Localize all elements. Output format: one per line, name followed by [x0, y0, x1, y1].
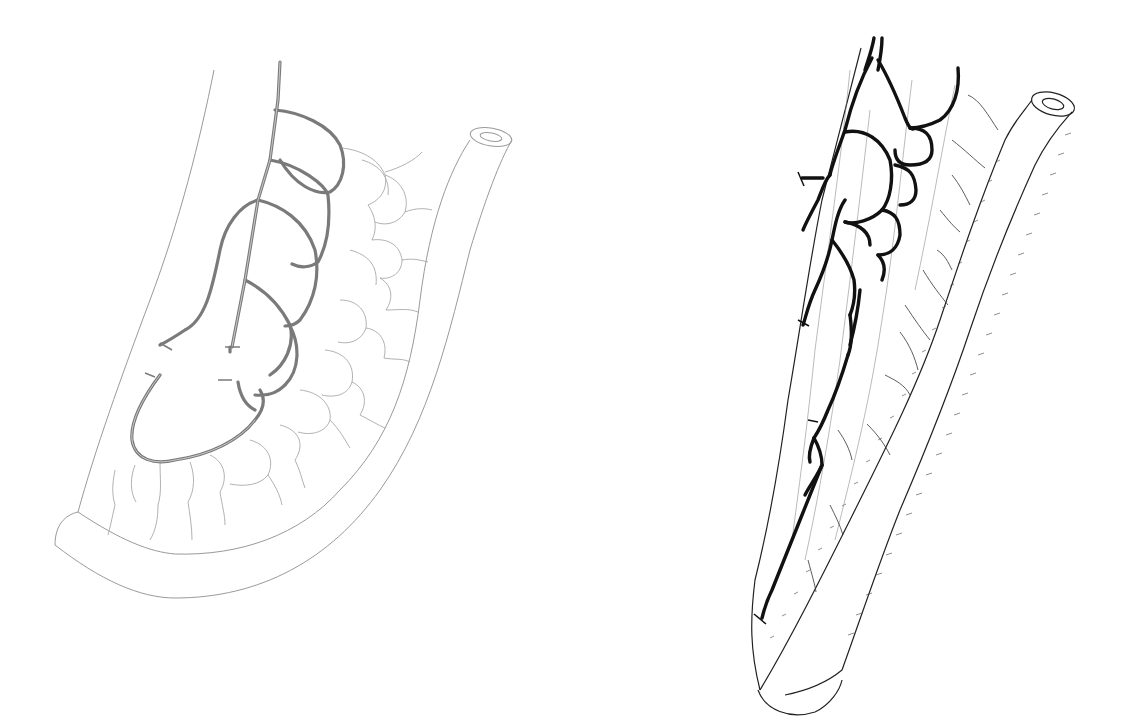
right-illustration	[560, 0, 1129, 724]
vessel-highlight	[132, 62, 280, 462]
bowel-outline	[752, 48, 1077, 715]
capillary-branches	[808, 95, 998, 592]
left-illustration	[0, 0, 560, 724]
vessel-network	[762, 38, 958, 618]
capillary-cells	[108, 148, 432, 540]
right-vascular-network-drawing	[560, 0, 1129, 724]
bowel-outline	[55, 70, 513, 598]
left-vascular-arcade-drawing	[0, 0, 560, 724]
